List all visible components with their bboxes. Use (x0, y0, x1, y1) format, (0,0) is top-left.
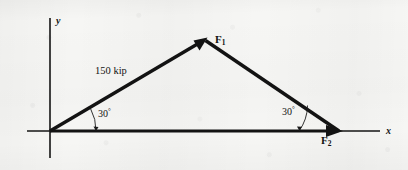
vector-f2-label: F2 (321, 135, 331, 146)
x-axis-label: x (386, 126, 391, 136)
force-diagram-figure: y x 150 kip F1 F2 30° 30° (0, 0, 408, 170)
right-angle-degree-symbol: ° (292, 105, 295, 113)
diagram-canvas (0, 0, 408, 170)
left-angle-label: 30° (98, 109, 111, 119)
vector-f1-shaft (206, 41, 340, 132)
right-angle-label: 30° (282, 107, 295, 117)
vector-f1-label: F1 (215, 34, 225, 45)
vector-f2-label-base: F (321, 134, 328, 146)
y-axis-label: y (56, 16, 60, 26)
left-angle-degree-symbol: ° (108, 107, 111, 115)
vector-f2-label-subscript: 2 (328, 139, 332, 148)
vector-f1-label-base: F (215, 33, 222, 45)
right-angle-value: 30 (282, 106, 292, 117)
left-angle-value: 30 (98, 108, 108, 119)
vector-150kip-arrowhead-icon (194, 38, 208, 51)
vector-150kip-shaft (50, 43, 200, 132)
vector-f1-label-subscript: 1 (222, 38, 226, 47)
vector-150kip-label: 150 kip (95, 66, 127, 77)
